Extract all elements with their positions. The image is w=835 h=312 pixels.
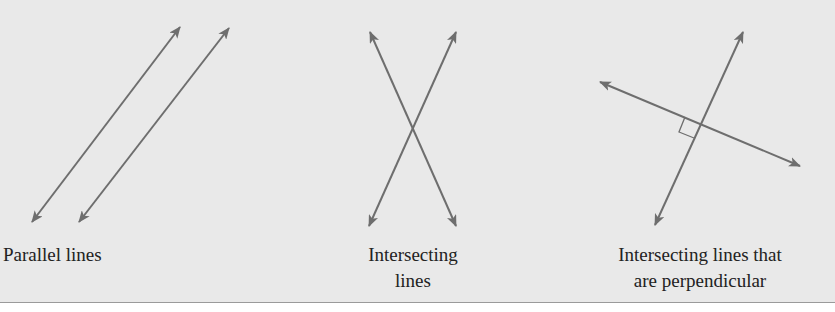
caption-line: Intersecting: [353, 242, 473, 268]
parallel-line-1: [32, 27, 180, 222]
caption-line: lines: [353, 268, 473, 294]
caption-parallel-lines: Parallel lines: [3, 242, 102, 268]
bottom-divider: [0, 302, 835, 303]
intersecting-lines-diagram: [369, 32, 456, 226]
caption-line: are perpendicular: [595, 268, 805, 294]
parallel-lines-diagram: [32, 27, 229, 222]
caption-line: Parallel lines: [3, 242, 102, 268]
parallel-line-2: [79, 28, 229, 222]
perpendicular-line-2: [655, 32, 743, 225]
perpendicular-lines-diagram: [600, 32, 800, 225]
caption-perpendicular-lines: Intersecting lines that are perpendicula…: [595, 242, 805, 294]
caption-line: Intersecting lines that: [595, 242, 805, 268]
caption-intersecting-lines: Intersecting lines: [353, 242, 473, 294]
